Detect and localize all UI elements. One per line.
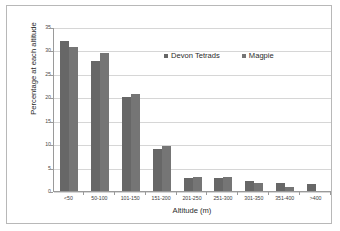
bar [193,177,202,191]
bar [184,178,193,191]
legend-swatch-icon [164,54,168,58]
bar [153,149,162,191]
x-axis-tick-label: 201-250 [177,196,208,201]
chart-page: 05101520253035 Percentage at each altitu… [0,0,340,231]
y-axis-tick-label: 15 [37,119,51,124]
legend-item: Magpie [242,52,274,60]
bar [60,41,69,191]
y-axis-tick-label: 0 [37,189,51,194]
bar [100,53,109,191]
bar [69,47,78,191]
bar [214,178,223,191]
chart-frame: 05101520253035 Percentage at each altitu… [6,5,332,224]
bar [223,177,232,191]
bar-group [85,28,116,191]
x-axis-tick-label: 351-400 [269,196,300,201]
bar [254,183,263,191]
x-axis-tick-label: 101-150 [115,196,146,201]
bar [91,61,100,191]
legend-swatch-icon [242,54,246,58]
bar-group [300,28,331,191]
legend: Devon TetradsMagpie [164,52,274,60]
x-axis-tick-label: >400 [300,196,331,201]
y-axis-tick-label: 20 [37,96,51,101]
legend-label: Devon Tetrads [171,52,220,60]
y-axis-tick-label: 30 [37,49,51,54]
y-axis-tick-label: 35 [37,25,51,30]
bar-group [269,28,300,191]
plot-area: Devon TetradsMagpie [53,28,331,192]
bar [307,184,316,191]
bar [131,94,140,191]
y-axis-tick-label: 5 [37,166,51,171]
bar [122,97,131,191]
x-axis-tick-label: 151-200 [146,196,177,201]
x-axis-title: Altitude (m) [53,206,331,215]
bar-group [54,28,85,191]
legend-label: Magpie [249,52,274,60]
bar [245,181,254,191]
x-axis-tick-label: <50 [53,196,84,201]
x-axis-tick-labels: <5050-100101-150151-200201-250251-300301… [53,196,331,201]
x-axis-tick-label: 251-300 [207,196,238,201]
bar [162,146,171,191]
legend-item: Devon Tetrads [164,52,220,60]
x-axis-tick-mark [330,192,331,195]
x-axis-tick-label: 301-350 [238,196,269,201]
bar [276,183,285,191]
bar-group [116,28,147,191]
y-axis-tick-label: 25 [37,72,51,77]
bar [285,187,294,191]
y-axis-title: Percentage at each altitude [29,0,38,144]
y-axis-tick-label: 10 [37,143,51,148]
x-axis-tick-label: 50-100 [84,196,115,201]
